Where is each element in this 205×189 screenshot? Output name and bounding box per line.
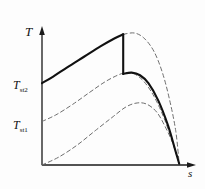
- lower-dashed-curve: [42, 103, 179, 165]
- x-axis: [42, 162, 196, 168]
- solid-curves: [42, 34, 179, 163]
- tick-label-tst2-subscript: st2: [20, 86, 28, 94]
- tick-label-tst1-subscript: st1: [20, 126, 28, 134]
- figure-canvas: T s Tst2 Tst1: [0, 0, 205, 189]
- tick-label-tst2: Tst2: [13, 79, 28, 94]
- lower-solid-expansion-curve: [123, 73, 179, 164]
- middle-dashed-curve: [42, 72, 179, 163]
- tick-label-tst1: Tst1: [13, 119, 28, 134]
- tick-label-tst2-base: T: [13, 78, 20, 92]
- y-axis-label: T: [25, 25, 32, 38]
- upper-solid-expansion-curve: [42, 34, 123, 83]
- x-axis-label: s: [188, 168, 192, 179]
- y-axis-arrow-icon: [39, 26, 45, 35]
- upper-dashed-saturation-curve: [123, 33, 179, 164]
- tick-label-tst1-base: T: [13, 118, 20, 132]
- y-axis: [39, 26, 45, 165]
